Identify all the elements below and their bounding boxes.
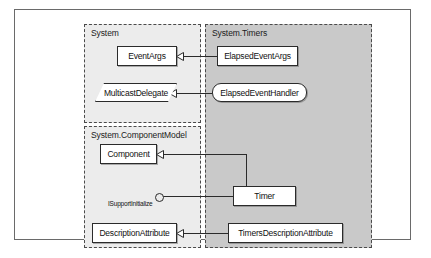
class-node-eventargs[interactable]: EventArgs <box>117 46 177 66</box>
class-node-elapsedeventhandler[interactable]: ElapsedEventHandler <box>212 83 307 102</box>
uml-class-diagram: System System.ComponentModel System.Time… <box>0 0 431 258</box>
class-node-timer-label: Timer <box>254 191 274 201</box>
connector-timer-component-vertical <box>246 154 247 190</box>
package-system: System <box>84 24 201 123</box>
class-node-descriptionattribute[interactable]: DescriptionAttribute <box>92 223 177 243</box>
connector-timer-isupportinitialize <box>162 196 233 197</box>
class-node-component[interactable]: Component <box>100 144 157 164</box>
class-node-elapsedeventargs-label: ElapsedEventArgs <box>224 51 291 61</box>
package-system-label: System <box>91 28 119 38</box>
package-system-componentmodel-label: System.ComponentModel <box>91 130 187 140</box>
inheritance-arrowhead-component <box>156 150 163 159</box>
class-node-elapsedeventargs[interactable]: ElapsedEventArgs <box>217 46 298 66</box>
connector-timer-component-horizontal <box>163 154 247 155</box>
class-node-component-label: Component <box>107 149 149 159</box>
interface-lollipop-isupportinitialize <box>155 193 164 202</box>
diagram-frame: System System.ComponentModel System.Time… <box>14 9 411 240</box>
class-node-multicastdelegate[interactable]: MulticastDelegate <box>95 83 177 102</box>
interface-label-isupportinitialize: ISupportInitialize <box>108 200 152 207</box>
inheritance-arrowhead-descriptionattribute <box>176 229 183 238</box>
connector-elapsedeventhandler-multicastdelegate <box>176 93 212 94</box>
inheritance-arrowhead-eventargs <box>176 52 183 61</box>
class-node-timersdescriptionattribute-label: TimersDescriptionAttribute <box>238 228 333 238</box>
class-node-eventargs-label: EventArgs <box>128 51 165 61</box>
class-node-multicastdelegate-label: MulticastDelegate <box>104 88 168 98</box>
class-node-timer[interactable]: Timer <box>233 186 296 206</box>
connector-elapsedeventargs-eventargs <box>183 56 217 57</box>
class-node-elapsedeventhandler-label: ElapsedEventHandler <box>220 88 298 98</box>
class-node-descriptionattribute-label: DescriptionAttribute <box>99 228 169 238</box>
class-node-timersdescriptionattribute[interactable]: TimersDescriptionAttribute <box>228 223 343 243</box>
package-system-timers-label: System.Timers <box>212 28 267 38</box>
connector-timersdescriptionattribute-descriptionattribute <box>183 233 228 234</box>
